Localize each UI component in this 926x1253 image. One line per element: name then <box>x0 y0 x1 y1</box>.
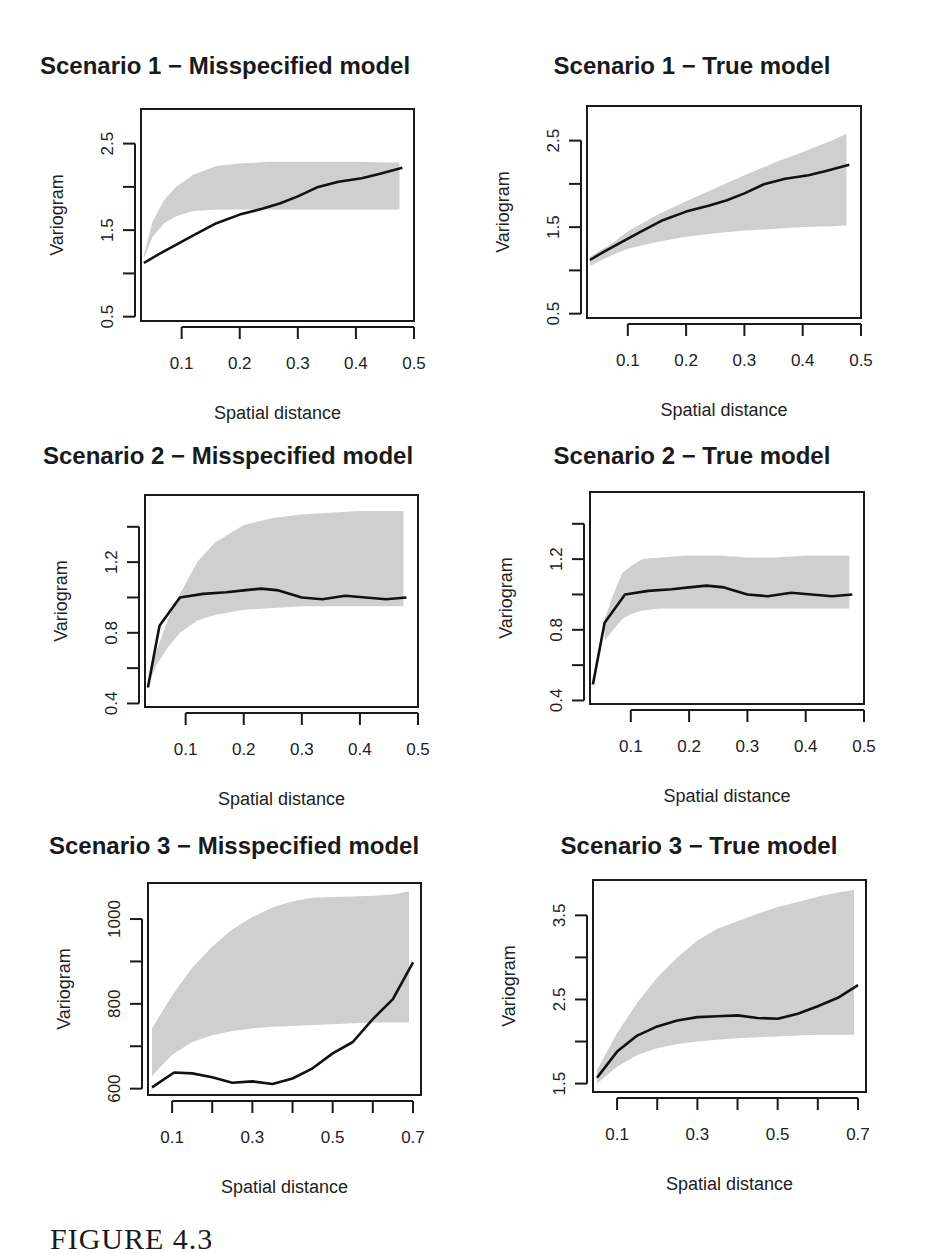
x-tick-label: 0.3 <box>733 351 757 370</box>
y-axis-label: Variogram <box>499 945 519 1027</box>
x-tick-label: 0.1 <box>619 737 643 756</box>
panel-scenario3-misspecified: Scenario 3 − Misspecified model0.10.30.5… <box>0 820 463 1210</box>
x-tick-label: 0.3 <box>736 737 760 756</box>
x-tick-label: 0.1 <box>174 740 198 759</box>
x-axis-label: Spatial distance <box>218 789 345 809</box>
envelope-band <box>144 162 400 258</box>
x-tick-label: 0.4 <box>344 354 368 373</box>
y-tick-label: 0.8 <box>547 618 566 642</box>
x-axis-label: Spatial distance <box>221 1177 348 1197</box>
x-tick-label: 0.4 <box>791 351 815 370</box>
y-axis-label: Variogram <box>496 557 516 639</box>
y-axis-label: Variogram <box>51 560 71 642</box>
chart-title: Scenario 2 − Misspecified model <box>43 442 413 469</box>
x-tick-label: 0.3 <box>286 354 310 373</box>
x-axis-label: Spatial distance <box>666 1174 793 1194</box>
panel-scenario1-misspecified: Scenario 1 − Misspecified model0.10.20.3… <box>0 40 463 430</box>
panel-scenario3-true: Scenario 3 − True model0.10.30.50.7Spati… <box>463 820 926 1210</box>
chart-title: Scenario 2 − True model <box>554 442 831 469</box>
y-tick-label: 0.5 <box>98 305 117 329</box>
chart-title: Scenario 1 − True model <box>554 52 831 79</box>
chart-title: Scenario 3 − True model <box>561 832 838 859</box>
envelope-band <box>605 556 850 641</box>
x-tick-label: 0.3 <box>290 740 314 759</box>
x-tick-label: 0.4 <box>794 737 818 756</box>
chart-svg: Scenario 1 − True model0.10.20.30.40.5Sp… <box>463 40 926 430</box>
y-axis-label: Variogram <box>54 948 74 1030</box>
y-tick-label: 0.4 <box>102 692 121 716</box>
x-tick-label: 0.3 <box>686 1125 710 1144</box>
x-tick-label: 0.1 <box>170 354 194 373</box>
x-tick-label: 0.1 <box>605 1125 629 1144</box>
x-tick-label: 0.2 <box>232 740 256 759</box>
y-tick-label: 1000 <box>105 900 124 938</box>
y-tick-label: 2.5 <box>544 129 563 153</box>
envelope-band <box>597 890 854 1084</box>
y-axis-label: Variogram <box>47 174 67 256</box>
panel-scenario2-misspecified: Scenario 2 − Misspecified model0.10.20.3… <box>0 430 463 820</box>
x-tick-label: 0.7 <box>401 1128 425 1147</box>
y-tick-label: 0.8 <box>102 621 121 645</box>
chart-svg: Scenario 2 − True model0.10.20.30.40.5Sp… <box>463 430 926 820</box>
x-tick-label: 0.5 <box>766 1125 790 1144</box>
x-axis-label: Spatial distance <box>660 400 787 420</box>
y-tick-label: 1.2 <box>547 547 566 571</box>
chart-title: Scenario 1 − Misspecified model <box>40 52 410 79</box>
x-tick-label: 0.2 <box>677 737 701 756</box>
x-axis-label: Spatial distance <box>214 403 341 423</box>
figure-caption: FIGURE 4.3 <box>50 1222 213 1253</box>
x-tick-label: 0.5 <box>849 351 873 370</box>
x-tick-label: 0.2 <box>228 354 252 373</box>
y-tick-label: 1.5 <box>98 218 117 242</box>
y-tick-label: 3.5 <box>550 904 569 928</box>
chart-svg: Scenario 1 − Misspecified model0.10.20.3… <box>0 40 463 430</box>
x-tick-label: 0.3 <box>241 1128 265 1147</box>
panel-scenario2-true: Scenario 2 − True model0.10.20.30.40.5Sp… <box>463 430 926 820</box>
plot-frame <box>141 109 414 321</box>
x-tick-label: 0.1 <box>616 351 640 370</box>
x-tick-label: 0.1 <box>160 1128 184 1147</box>
chart-title: Scenario 3 − Misspecified model <box>49 832 419 859</box>
envelope-band <box>152 892 409 1076</box>
x-axis-label: Spatial distance <box>663 786 790 806</box>
y-axis-label: Variogram <box>493 171 513 253</box>
x-tick-label: 0.5 <box>406 740 430 759</box>
x-tick-label: 0.5 <box>321 1128 345 1147</box>
x-tick-label: 0.2 <box>674 351 698 370</box>
x-tick-label: 0.4 <box>348 740 372 759</box>
chart-svg: Scenario 3 − True model0.10.30.50.7Spati… <box>463 820 926 1210</box>
x-tick-label: 0.5 <box>402 354 426 373</box>
y-tick-label: 1.5 <box>550 1072 569 1096</box>
chart-svg: Scenario 3 − Misspecified model0.10.30.5… <box>0 820 463 1210</box>
y-tick-label: 2.5 <box>550 988 569 1012</box>
x-tick-label: 0.5 <box>852 737 876 756</box>
y-tick-label: 1.5 <box>544 215 563 239</box>
y-tick-label: 0.4 <box>547 689 566 713</box>
y-tick-label: 800 <box>105 990 124 1018</box>
y-tick-label: 2.5 <box>98 132 117 156</box>
x-tick-label: 0.7 <box>846 1125 870 1144</box>
chart-svg: Scenario 2 − Misspecified model0.10.20.3… <box>0 430 463 820</box>
y-tick-label: 0.5 <box>544 302 563 326</box>
y-tick-label: 1.2 <box>102 550 121 574</box>
envelope-band <box>590 134 847 266</box>
y-tick-label: 600 <box>105 1074 124 1102</box>
panel-scenario1-true: Scenario 1 − True model0.10.20.30.40.5Sp… <box>463 40 926 430</box>
